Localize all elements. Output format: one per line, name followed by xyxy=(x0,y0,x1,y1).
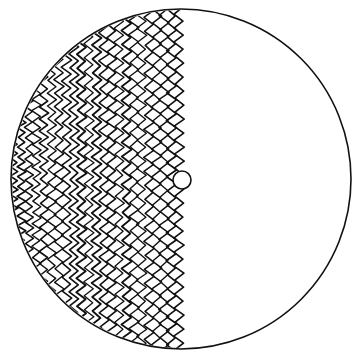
zigzag-line xyxy=(114,14,125,343)
zigzag-line xyxy=(32,77,42,269)
center-small-circle xyxy=(173,171,191,189)
circle-mesh-illustration xyxy=(0,0,361,360)
zigzag-line xyxy=(39,71,49,282)
figure xyxy=(0,0,361,360)
zigzag-line xyxy=(106,10,117,339)
zigzag-mesh-pattern xyxy=(10,0,185,352)
zigzag-line xyxy=(151,0,162,352)
